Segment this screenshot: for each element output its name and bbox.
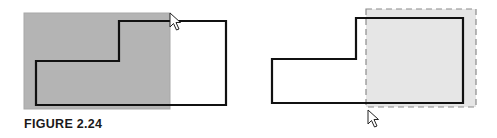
cursor-arrow-icon bbox=[368, 110, 379, 127]
right-panel bbox=[272, 9, 476, 127]
cursor-arrow-icon bbox=[170, 13, 181, 30]
figure-caption: FIGURE 2.24 bbox=[24, 117, 102, 131]
crossing-selection-rect bbox=[366, 9, 476, 107]
left-panel bbox=[24, 13, 226, 109]
